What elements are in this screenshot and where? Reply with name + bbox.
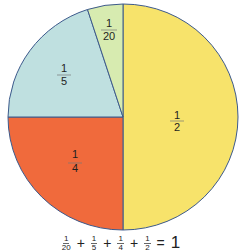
- term-one-quarter: 14: [117, 235, 123, 252]
- slice-one-half: [123, 4, 238, 230]
- pie-slices: [8, 4, 238, 230]
- sum-equation: 120 + 15 + 14 + 12 = 1: [0, 234, 239, 252]
- plus-sign: +: [130, 235, 138, 251]
- pie-chart: 1 2 1 4 1 5 1 20: [0, 0, 239, 234]
- svg-text:1: 1: [174, 109, 180, 121]
- term-one-fifth: 15: [91, 235, 97, 252]
- svg-text:1: 1: [61, 62, 67, 74]
- svg-text:4: 4: [72, 162, 78, 174]
- term-one-half: 12: [144, 235, 150, 252]
- slice-one-quarter: [8, 117, 123, 230]
- plus-sign: +: [103, 235, 111, 251]
- plus-sign: +: [77, 235, 85, 251]
- svg-text:2: 2: [174, 121, 180, 133]
- svg-text:1: 1: [72, 148, 78, 160]
- equals-sign: =: [157, 235, 165, 251]
- equation-result: 1: [171, 233, 180, 252]
- term-one-twentieth: 120: [62, 235, 71, 252]
- svg-text:20: 20: [103, 30, 115, 42]
- svg-text:5: 5: [61, 75, 67, 87]
- svg-text:1: 1: [106, 17, 112, 29]
